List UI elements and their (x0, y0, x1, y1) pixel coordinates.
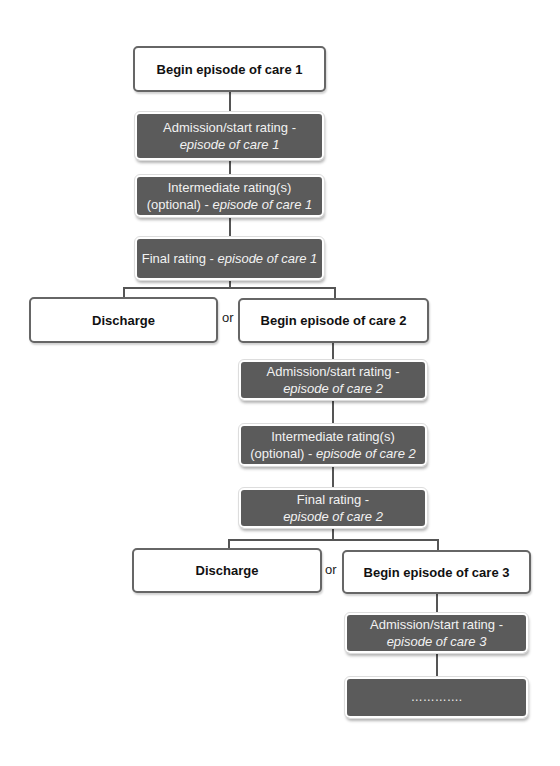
node-label: Begin episode of care 2 (261, 313, 407, 328)
node-label-line1: Admission/start rating - (267, 364, 400, 379)
node-label-episode: episode of care 1 (180, 137, 280, 152)
node-admission-rating-2: Admission/start rating - episode of care… (239, 360, 427, 400)
node-label-episode: episode of care 2 (316, 446, 416, 461)
connector-begin2-admission2 (332, 343, 334, 360)
node-final-rating-2: Final rating - episode of care 2 (239, 488, 427, 528)
node-label: Discharge (196, 563, 259, 578)
node-continuation: …………. (345, 677, 528, 718)
connector-admission1-intermediate1 (229, 160, 231, 175)
node-label-episode: episode of care 3 (387, 634, 487, 649)
node-label-optional: (optional) - (250, 446, 316, 461)
node-label: Discharge (92, 313, 155, 328)
branch-1-right-drop (334, 287, 336, 298)
node-admission-rating-1: Admission/start rating - episode of care… (135, 112, 324, 160)
node-discharge-1: Discharge (29, 297, 218, 343)
node-label-line1: Admission/start rating - (370, 617, 503, 632)
connector-admission2-intermediate2 (332, 400, 334, 424)
node-label-prefix: Final rating - (142, 251, 218, 266)
node-begin-episode-3: Begin episode of care 3 (342, 550, 531, 594)
node-label: Begin episode of care 3 (364, 565, 510, 580)
node-label: Begin episode of care 1 (157, 62, 303, 77)
node-label-episode: episode of care 1 (213, 197, 313, 212)
branch-1-horizontal (123, 287, 336, 289)
node-label-optional: (optional) - (147, 197, 213, 212)
branch-2-right-drop (437, 539, 439, 550)
node-discharge-2: Discharge (132, 548, 322, 593)
node-final-rating-1: Final rating - episode of care 1 (135, 237, 324, 280)
node-label-line1: Intermediate rating(s) (168, 180, 292, 195)
or-label-2: or (325, 562, 337, 577)
connector-intermediate2-final2 (332, 466, 334, 488)
connector-admission3-continuation (436, 653, 438, 677)
connector-begin1-admission1 (229, 92, 231, 112)
node-label-episode: episode of care 2 (283, 381, 383, 396)
node-intermediate-rating-1: Intermediate rating(s) (optional) - epis… (135, 175, 324, 217)
node-admission-rating-3: Admission/start rating - episode of care… (345, 613, 528, 653)
node-begin-episode-1: Begin episode of care 1 (133, 46, 326, 92)
or-label-1: or (222, 310, 234, 325)
node-label-episode: episode of care 1 (218, 251, 318, 266)
node-label-line1: Intermediate rating(s) (271, 429, 395, 444)
node-label-line1: Final rating - (297, 492, 369, 507)
node-intermediate-rating-2: Intermediate rating(s) (optional) - epis… (239, 424, 427, 466)
connector-intermediate1-final1 (229, 217, 231, 237)
ellipsis-label: …………. (411, 689, 462, 706)
branch-2-horizontal (228, 539, 439, 541)
connector-begin3-admission3 (436, 594, 438, 613)
node-begin-episode-2: Begin episode of care 2 (238, 298, 429, 343)
node-label-episode: episode of care 2 (283, 509, 383, 524)
node-label-line1: Admission/start rating - (163, 120, 296, 135)
